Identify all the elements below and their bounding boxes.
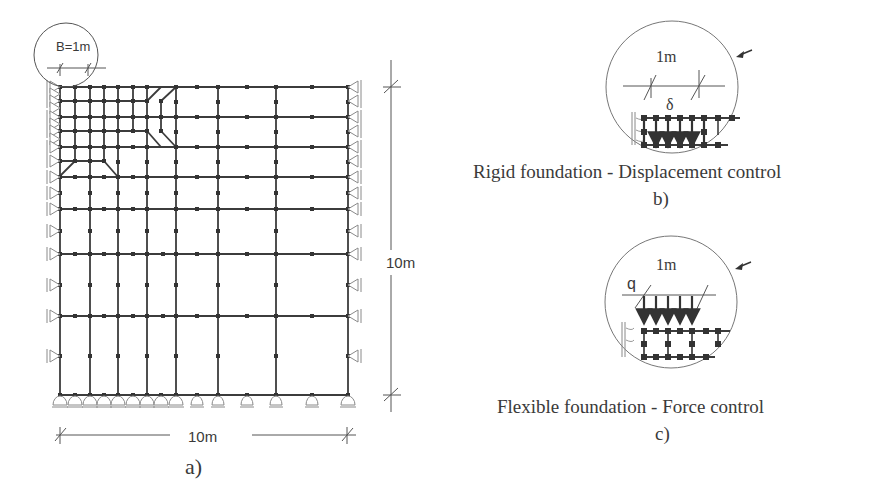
right-roller-supports (348, 80, 361, 363)
panel-b-mesh (632, 112, 740, 148)
pointer-arrow-icon (736, 50, 752, 58)
pointer-arrow-icon (735, 262, 751, 270)
width-dimension-label: 10m (188, 428, 217, 445)
height-dimension-label: 10m (386, 254, 415, 271)
load-symbol-q: q (627, 275, 636, 292)
mesh-vertical-lines (60, 87, 348, 395)
panel-c-detail: 1m q (497, 236, 764, 445)
panel-b-span-dimension (623, 70, 725, 100)
distributed-load-arrows (644, 296, 692, 317)
figure-canvas: B=1m 10m 10m a) 1m (0, 0, 878, 492)
panel-c-label: c) (655, 423, 670, 445)
bottom-pin-supports (52, 396, 356, 407)
mesh-panel-a: B=1m 10m 10m a) (34, 23, 415, 479)
panel-c-caption: Flexible foundation - Force control (497, 396, 764, 417)
panel-b-label: b) (653, 188, 669, 210)
panel-a-label: a) (185, 454, 202, 479)
detail-width-label: B=1m (56, 39, 90, 54)
detail-circle-a (34, 23, 106, 87)
panel-b-detail: 1m δ (473, 21, 781, 210)
panel-c-span-label: 1m (656, 256, 677, 273)
panel-c-mesh (622, 322, 730, 360)
left-roller-supports (47, 80, 60, 363)
height-dimension-line (383, 60, 401, 412)
displacement-symbol: δ (666, 96, 674, 113)
panel-b-span-label: 1m (656, 48, 677, 65)
panel-b-caption: Rigid foundation - Displacement control (473, 161, 781, 182)
